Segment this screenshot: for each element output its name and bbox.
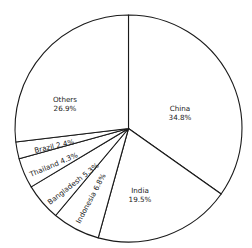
china-pct: 34.8% (169, 113, 192, 122)
pie-chart: China 34.8% Others 26.9% India 19.5% Bra… (0, 0, 252, 248)
india-pct: 19.5% (129, 195, 152, 204)
wedge-others (15, 15, 128, 142)
pie-wedges (15, 15, 242, 242)
india-label: India (131, 186, 149, 195)
slice-label-china: China 34.8% (169, 104, 192, 122)
china-label: China (170, 104, 191, 113)
slice-label-india: India 19.5% (129, 186, 152, 204)
others-pct: 26.9% (54, 104, 77, 113)
others-label: Others (53, 95, 77, 104)
slice-label-others: Others 26.9% (53, 95, 77, 113)
